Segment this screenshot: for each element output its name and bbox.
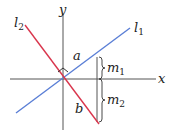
perpendicular-slopes-diagram: x y l1 l2 a b m1 m2	[0, 0, 174, 135]
segment-a-label: a	[73, 48, 81, 63]
segment-b-label: b	[75, 101, 83, 116]
line-l2	[25, 25, 99, 124]
brace-m1	[99, 57, 105, 79]
line-l1-label: l1	[134, 20, 144, 37]
x-axis-label: x	[158, 71, 166, 86]
y-axis-label: y	[58, 2, 67, 17]
brace-m2-label: m2	[107, 92, 125, 109]
brace-m2	[99, 79, 105, 122]
brace-m1-label: m1	[107, 60, 125, 77]
line-l2-label: l2	[14, 15, 24, 32]
